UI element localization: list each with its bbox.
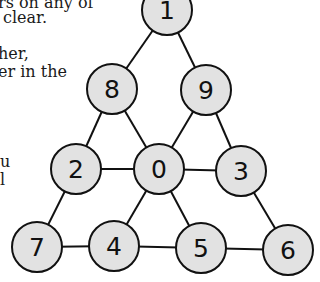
node-label: 9 — [198, 76, 214, 105]
node-1: 1 — [142, 0, 192, 35]
node-label: 1 — [159, 0, 175, 25]
number-triangle-diagram: 1892037456 — [0, 0, 320, 282]
node-label: 5 — [193, 234, 209, 263]
node-9: 9 — [181, 65, 231, 115]
node-label: 0 — [151, 155, 167, 184]
node-8: 8 — [87, 64, 137, 114]
node-5: 5 — [176, 223, 226, 273]
node-label: 4 — [106, 232, 122, 261]
node-7: 7 — [12, 222, 62, 272]
node-2: 2 — [51, 144, 101, 194]
node-label: 3 — [233, 157, 249, 186]
edges — [37, 10, 288, 250]
node-0: 0 — [134, 144, 184, 194]
node-4: 4 — [89, 221, 139, 271]
node-label: 6 — [280, 236, 296, 265]
node-label: 8 — [104, 75, 120, 104]
node-6: 6 — [263, 225, 313, 275]
node-label: 2 — [68, 155, 84, 184]
node-label: 7 — [29, 233, 45, 262]
nodes: 1892037456 — [12, 0, 313, 275]
node-3: 3 — [216, 146, 266, 196]
